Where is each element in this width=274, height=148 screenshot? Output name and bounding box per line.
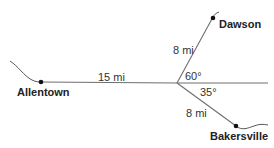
allentown-marker: [39, 80, 44, 85]
route-diagram: Allentown Dawson Bakersville 15 mi 8 mi …: [0, 0, 274, 148]
distance-label-allentown-junction: 15 mi: [98, 71, 125, 83]
distance-label-junction-bakersville: 8 mi: [186, 107, 207, 119]
city-label-bakersville: Bakersville: [210, 130, 268, 142]
angle-label-bakersville: 35°: [200, 86, 217, 98]
allentown-road-curve: [10, 61, 41, 82]
distance-label-junction-dawson: 8 mi: [173, 44, 194, 56]
bakersville-road-curve: [236, 124, 268, 128]
bakersville-marker: [234, 124, 239, 129]
city-label-allentown: Allentown: [17, 86, 70, 98]
city-label-dawson: Dawson: [219, 18, 261, 30]
angle-label-dawson: 60°: [185, 70, 202, 82]
dawson-marker: [211, 16, 216, 21]
